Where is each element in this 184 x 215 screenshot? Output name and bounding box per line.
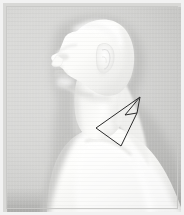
annotation-layer [7, 7, 183, 214]
region-of-interest-quadrilateral[interactable] [7, 7, 183, 214]
screenshot-root [0, 0, 184, 215]
photo-plate [7, 7, 183, 214]
image-frame [0, 0, 184, 215]
